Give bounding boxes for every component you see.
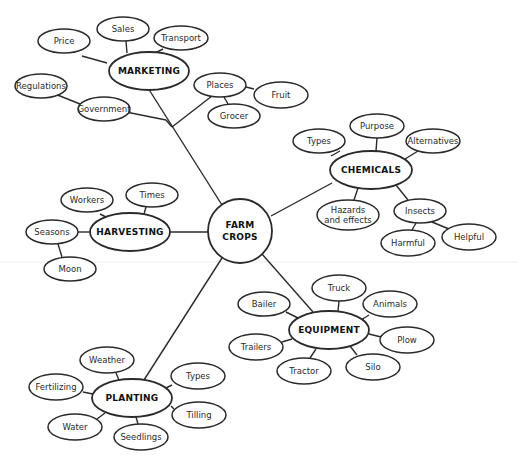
connector-line xyxy=(310,349,316,358)
node-label: Seedlings xyxy=(120,432,162,442)
concept-nodes: FARMCROPSMARKETINGCHEMICALSHARVESTINGEQU… xyxy=(15,17,496,450)
node-grocer[interactable]: Grocer xyxy=(208,104,260,128)
node-label: Transport xyxy=(160,33,202,43)
node-label: Helpful xyxy=(454,232,484,242)
node-label: Types xyxy=(185,371,211,381)
node-label: MARKETING xyxy=(118,66,180,76)
connector-line xyxy=(432,222,449,229)
node-label: Water xyxy=(62,422,88,432)
node-label: Harmful xyxy=(391,238,425,248)
node-fruit[interactable]: Fruit xyxy=(254,82,308,108)
connector-line xyxy=(350,346,357,355)
connector-line xyxy=(246,87,254,89)
connector-line xyxy=(172,96,212,127)
node-animals[interactable]: Animals xyxy=(363,291,417,317)
connector-line xyxy=(171,406,174,409)
node-water[interactable]: Water xyxy=(48,414,102,440)
node-seedlings[interactable]: Seedlings xyxy=(114,424,168,450)
node-label: Workers xyxy=(70,195,105,205)
connector-line xyxy=(144,207,146,214)
node-insects[interactable]: Insects xyxy=(394,199,446,223)
connector-line xyxy=(126,41,127,53)
node-regulations[interactable]: Regulations xyxy=(15,74,67,98)
node-tilling[interactable]: Tilling xyxy=(172,402,226,428)
node-chem-types[interactable]: Types xyxy=(293,129,345,153)
node-label: Weather xyxy=(89,355,125,365)
node-label: Alternatives xyxy=(407,136,459,146)
node-label: Types xyxy=(306,136,332,146)
connector-line xyxy=(286,312,298,318)
node-farm-crops[interactable]: FARMCROPS xyxy=(208,199,272,263)
node-planting[interactable]: PLANTING xyxy=(92,379,172,417)
node-label: Tractor xyxy=(288,366,319,376)
node-times[interactable]: Times xyxy=(126,183,178,207)
node-tractor[interactable]: Tractor xyxy=(277,358,331,384)
connector-line xyxy=(97,413,105,419)
node-moon[interactable]: Moon xyxy=(44,257,96,281)
node-places[interactable]: Places xyxy=(194,73,246,97)
node-label: Animals xyxy=(373,299,407,309)
node-truck[interactable]: Truck xyxy=(312,275,366,301)
node-label: Truck xyxy=(327,283,350,293)
node-seasons[interactable]: Seasons xyxy=(26,220,78,244)
node-transport[interactable]: Transport xyxy=(154,26,208,50)
node-label: Times xyxy=(138,190,165,200)
node-alternatives[interactable]: Alternatives xyxy=(406,129,460,153)
node-label: Insects xyxy=(405,206,436,216)
node-label: CHEMICALS xyxy=(341,165,401,175)
node-workers[interactable]: Workers xyxy=(61,188,113,212)
node-silo[interactable]: Silo xyxy=(346,354,400,380)
center-label: FARM xyxy=(226,220,255,230)
node-label: Government xyxy=(77,104,131,114)
connector-line xyxy=(376,138,377,151)
node-label: Seasons xyxy=(34,227,70,237)
connector-line xyxy=(82,56,107,63)
connector-line xyxy=(282,339,292,342)
node-label: Hazards xyxy=(331,205,366,215)
connector-line xyxy=(83,392,93,394)
node-label: Price xyxy=(54,36,75,46)
node-price[interactable]: Price xyxy=(38,29,90,53)
node-plant-types[interactable]: Types xyxy=(171,363,225,389)
node-trailers[interactable]: Trailers xyxy=(229,334,283,360)
node-sales[interactable]: Sales xyxy=(97,17,149,41)
node-label: Sales xyxy=(112,24,135,34)
connector-line xyxy=(405,151,418,159)
node-label: Silo xyxy=(365,362,380,372)
node-purpose[interactable]: Purpose xyxy=(350,114,404,138)
node-label: Fruit xyxy=(272,90,292,100)
node-label: EQUIPMENT xyxy=(298,325,360,335)
node-hazards[interactable]: Hazardsand effects xyxy=(317,200,379,230)
node-harvesting[interactable]: HARVESTING xyxy=(90,213,170,251)
connector-line xyxy=(224,97,228,104)
node-equipment[interactable]: EQUIPMENT xyxy=(289,311,369,349)
node-bailer[interactable]: Bailer xyxy=(238,292,290,316)
connector-line xyxy=(58,244,62,257)
connector-line xyxy=(116,373,119,380)
node-label: Tilling xyxy=(185,410,211,420)
node-plow[interactable]: Plow xyxy=(380,327,434,353)
node-label: Trailers xyxy=(240,342,272,352)
node-harmful[interactable]: Harmful xyxy=(381,230,435,256)
connector-line xyxy=(354,188,358,200)
node-weather[interactable]: Weather xyxy=(80,347,134,373)
node-label: Fertilizing xyxy=(35,382,76,392)
node-label: Places xyxy=(206,80,234,90)
farm-crops-mind-map: FARMCROPSMARKETINGCHEMICALSHARVESTINGEQU… xyxy=(0,0,518,467)
connector-line xyxy=(412,223,416,230)
node-fertilizing[interactable]: Fertilizing xyxy=(29,374,83,400)
connector-line xyxy=(369,334,381,337)
node-chemicals[interactable]: CHEMICALS xyxy=(330,151,412,189)
node-label: and effects xyxy=(324,215,372,225)
connector-line xyxy=(126,112,166,120)
connector-line xyxy=(338,301,339,311)
center-label: CROPS xyxy=(222,232,257,242)
connector-line xyxy=(144,258,222,380)
node-marketing[interactable]: MARKETING xyxy=(109,52,189,90)
node-label: Bailer xyxy=(252,299,277,309)
node-government[interactable]: Government xyxy=(77,97,131,121)
connector-line xyxy=(136,417,138,424)
node-helpful[interactable]: Helpful xyxy=(442,224,496,250)
node-label: Regulations xyxy=(16,81,66,91)
node-label: Grocer xyxy=(220,111,249,121)
